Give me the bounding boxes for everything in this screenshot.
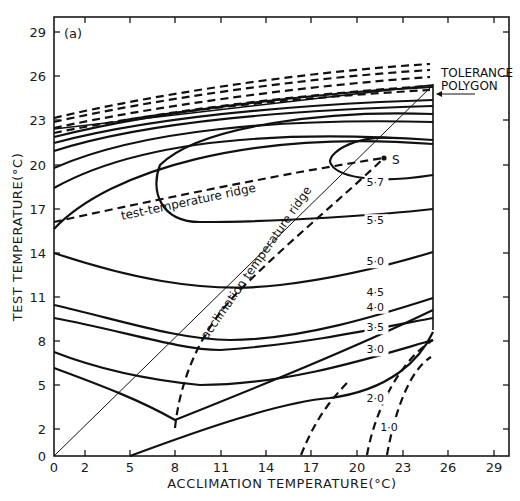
x-tick-label: 26 (440, 460, 457, 475)
contour-label: 4·5 (367, 286, 385, 299)
contour-label: 5·0 (367, 255, 385, 268)
contour-label: 1·0 (380, 421, 398, 434)
contour-plot: 025811141720232629 025811141720232629 (a… (0, 0, 520, 501)
x-tick-label: 14 (258, 460, 275, 475)
contour-label: 5·5 (367, 214, 385, 227)
x-tick-label: 20 (349, 460, 366, 475)
optimum-label: S (392, 153, 400, 167)
tolerance-label-line2: POLYGON (441, 79, 498, 93)
y-tick-label: 20 (29, 158, 46, 173)
contour-label: 4·0 (367, 301, 385, 314)
x-axis-title: ACCLIMATION TEMPERATURE(°C) (167, 476, 396, 491)
optimum-point (381, 155, 386, 160)
contour-labels: 5·75·55·04·54·03·53·02·01·0 (365, 176, 403, 434)
contour-label: 5·7 (367, 176, 385, 189)
test-ridge-label: test-temperature ridge (120, 181, 257, 223)
x-tick-label: 8 (171, 460, 179, 475)
y-tick-label: 0 (38, 449, 46, 464)
x-tick-label: 23 (395, 460, 412, 475)
y-tick-label: 29 (29, 25, 46, 40)
y-tick-label: 11 (29, 290, 46, 305)
contour-label: 3·0 (367, 343, 385, 356)
panel-label: (a) (64, 26, 82, 41)
y-tick-label: 14 (29, 246, 46, 261)
y-axis-title: TEST TEMPERATURE(°C) (10, 153, 25, 323)
y-tick-label: 8 (38, 334, 46, 349)
chart: 025811141720232629 025811141720232629 (a… (0, 0, 520, 501)
tolerance-label-line1: TOLERANCE (440, 66, 513, 80)
y-tick-label: 2 (38, 422, 46, 437)
x-tick-label: 29 (486, 460, 503, 475)
y-tick-label: 17 (29, 202, 46, 217)
x-tick-label: 5 (126, 460, 134, 475)
x-tick-label: 17 (303, 460, 320, 475)
contour-label: 2·0 (367, 392, 385, 405)
acclimation-ridge-label: acclimation temperature ridge (198, 184, 315, 342)
y-tick-label: 23 (29, 113, 46, 128)
x-tick-label: 0 (50, 460, 58, 475)
y-tick-label: 26 (29, 69, 46, 84)
contour-label: 3·5 (367, 321, 385, 334)
x-tick-label: 11 (213, 460, 230, 475)
y-tick-label: 5 (38, 378, 46, 393)
x-tick-label: 2 (81, 460, 89, 475)
